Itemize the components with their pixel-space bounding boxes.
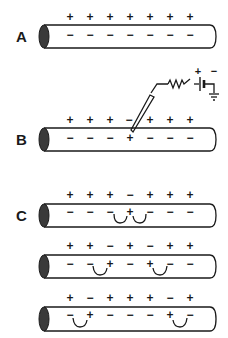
panel-label-b: B — [16, 131, 27, 148]
outer-charge: + — [66, 10, 73, 24]
outer-charge: + — [146, 10, 153, 24]
outer-charge: + — [86, 239, 93, 253]
inner-charge: − — [146, 308, 153, 322]
inner-charge: − — [66, 28, 73, 42]
outer-charge: − — [166, 291, 173, 305]
inner-charges-c-1: − − − + − − − — [66, 205, 193, 219]
outer-charge: + — [106, 188, 113, 202]
panel-b: B + + + − + + + − − − + − − − — [16, 65, 219, 151]
inner-charge: − — [166, 28, 173, 42]
local-current-left-icon — [93, 266, 107, 275]
outer-charge: + — [186, 113, 193, 127]
outer-charge: + — [66, 291, 73, 305]
outer-charges-b: + + + − + + + — [66, 113, 193, 127]
outer-charge: + — [186, 10, 193, 24]
inner-charge: + — [106, 257, 113, 271]
outer-charges-c-1: + + + − + + + — [66, 188, 193, 202]
panel-c-1: C + + + − + + + − − − + − − − — [16, 188, 216, 227]
inner-charge: − — [66, 308, 73, 322]
inner-charge: − — [66, 205, 73, 219]
outer-charge: + — [126, 239, 133, 253]
inner-charge: − — [146, 205, 153, 219]
inner-charge: − — [186, 28, 193, 42]
inner-charge: + — [126, 131, 133, 145]
inner-charge: − — [106, 205, 113, 219]
panel-label-a: A — [16, 28, 27, 45]
resistor-icon — [168, 79, 190, 88]
outer-charge: − — [126, 188, 133, 202]
inner-charge: − — [86, 28, 93, 42]
inner-charge: − — [146, 131, 153, 145]
inner-charge: + — [126, 205, 133, 219]
inner-charge: − — [186, 308, 193, 322]
inner-charge: + — [86, 308, 93, 322]
outer-charge: + — [86, 10, 93, 24]
inner-charge: − — [186, 257, 193, 271]
inner-charge: − — [166, 205, 173, 219]
axon-propagation-diagram: A + + + + + + + − − − − − − − B + + + — [0, 0, 228, 338]
outer-charge: + — [126, 10, 133, 24]
inner-charge: − — [86, 131, 93, 145]
battery-plus-label: + — [195, 65, 201, 77]
inner-charge: − — [66, 257, 73, 271]
inner-charge: − — [126, 28, 133, 42]
outer-charge: + — [166, 188, 173, 202]
outer-charge: + — [166, 10, 173, 24]
panel-c-2: + + − + − + + − − + − + − − — [39, 239, 216, 278]
outer-charge: + — [66, 188, 73, 202]
outer-charge: + — [186, 291, 193, 305]
inner-charge: − — [166, 257, 173, 271]
outer-charge: − — [106, 239, 113, 253]
inner-charge: + — [166, 308, 173, 322]
outer-charge: + — [66, 239, 73, 253]
outer-charge: + — [86, 113, 93, 127]
battery-minus-label: − — [211, 65, 217, 77]
inner-charge: − — [126, 257, 133, 271]
inner-charge: − — [106, 28, 113, 42]
outer-charge: + — [106, 10, 113, 24]
panel-label-c: C — [16, 207, 27, 224]
outer-charge: + — [86, 188, 93, 202]
outer-charge: + — [166, 113, 173, 127]
axon-end-b — [39, 128, 49, 151]
inner-charges-b: − − − + − − − — [66, 131, 193, 145]
inner-charge: − — [146, 28, 153, 42]
local-current-left-icon — [114, 214, 127, 223]
outer-charges-a: + + + + + + + — [66, 10, 193, 24]
inner-charge: − — [166, 131, 173, 145]
outer-charge: + — [186, 239, 193, 253]
axon-end-a — [39, 25, 49, 48]
local-current-right-icon — [133, 214, 146, 223]
local-current-left-icon — [73, 318, 87, 327]
outer-charge: + — [146, 291, 153, 305]
inner-charges-a: − − − − − − − — [66, 28, 193, 42]
outer-charge: − — [125, 113, 132, 127]
outer-charge: + — [146, 113, 153, 127]
local-current-right-icon — [153, 266, 167, 275]
panel-c-3: + − + + + − + − + − − − + − — [39, 291, 216, 331]
outer-charge: + — [126, 291, 133, 305]
panel-a: A + + + + + + + − − − − − − − — [16, 10, 216, 48]
inner-charge: − — [106, 131, 113, 145]
outer-charges-c-2: + + − + − + + — [66, 239, 193, 253]
inner-charges-c-2: − − + − + − − — [66, 257, 193, 271]
inner-charge: − — [86, 205, 93, 219]
outer-charge: + — [166, 239, 173, 253]
axon-end-c-3 — [39, 307, 49, 331]
inner-charge: + — [146, 257, 153, 271]
inner-charge: − — [66, 131, 73, 145]
outer-charge: + — [106, 291, 113, 305]
inner-charge: − — [106, 308, 113, 322]
ground-icon — [209, 94, 219, 100]
outer-charges-c-3: + − + + + − + — [66, 291, 193, 305]
inner-charge: − — [186, 131, 193, 145]
outer-charge: − — [86, 291, 93, 305]
outer-charge: − — [146, 239, 153, 253]
axon-end-c-2 — [39, 255, 49, 278]
inner-charge: − — [186, 205, 193, 219]
inner-charge: − — [126, 308, 133, 322]
stimulator-circuit: + − — [131, 65, 219, 132]
electrode-wire — [151, 84, 168, 93]
outer-charge: + — [146, 188, 153, 202]
outer-charge: + — [66, 113, 73, 127]
